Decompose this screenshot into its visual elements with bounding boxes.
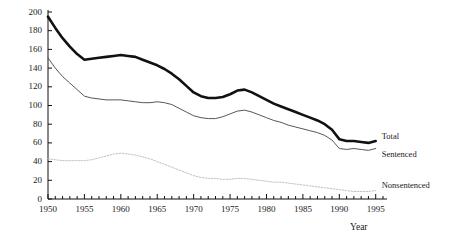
y-tick-label: 20 — [18, 176, 42, 185]
x-tick-label: 1950 — [31, 205, 65, 214]
y-tick-label: 200 — [18, 8, 42, 17]
series-line-nonsentenced — [48, 153, 376, 191]
x-tick-label: 1965 — [140, 205, 174, 214]
x-tick-label: 1980 — [249, 205, 283, 214]
y-tick-label: 100 — [18, 101, 42, 110]
y-tick-label: 60 — [18, 138, 42, 147]
series-label-nonsentenced: Nonsentenced — [382, 181, 430, 190]
x-tick-label: 1970 — [177, 205, 211, 214]
x-tick-label: 1955 — [67, 205, 101, 214]
y-tick-label: 40 — [18, 157, 42, 166]
series-line-total — [48, 17, 376, 143]
y-tick-label: 0 — [18, 195, 42, 204]
series-label-sentenced: Sentenced — [382, 150, 417, 159]
incarceration-rate-line-chart: Incarceration rate per 100,000 inhabitan… — [0, 0, 453, 251]
x-tick-label: 1960 — [104, 205, 138, 214]
y-tick-label: 120 — [18, 82, 42, 91]
y-tick-label: 160 — [18, 45, 42, 54]
axis-lines — [48, 10, 387, 199]
x-tick-label: 1975 — [213, 205, 247, 214]
y-tick-label: 140 — [18, 64, 42, 73]
y-tick-label: 180 — [18, 26, 42, 35]
series-line-sentenced — [48, 58, 376, 151]
y-tick-label: 80 — [18, 120, 42, 129]
x-axis-title: Year — [350, 222, 368, 232]
x-tick-label: 1995 — [359, 205, 393, 214]
x-tick-label: 1985 — [286, 205, 320, 214]
x-tick-label: 1990 — [322, 205, 356, 214]
series-label-total: Total — [382, 132, 399, 141]
